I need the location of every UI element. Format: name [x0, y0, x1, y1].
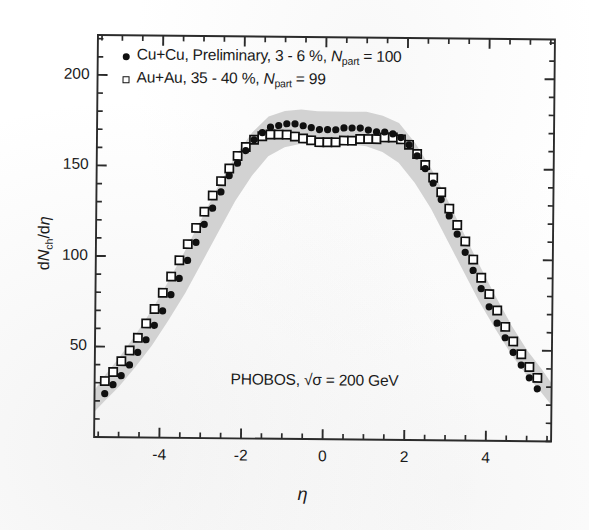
systematic-error-band: [94, 107, 554, 416]
y-axis-label: dNch/dη: [35, 183, 56, 303]
open-square-icon: [114, 76, 136, 83]
y-axis-label-sub: ch: [43, 239, 55, 250]
legend-text-cu-cu-b: = 100: [359, 48, 401, 65]
experiment-annotation: PHOBOS, √σ = 200 GeV: [231, 370, 399, 390]
legend-text-cu-cu-sub: part: [342, 55, 359, 67]
x-tick-label: -2: [221, 446, 261, 464]
x-tick-label: -4: [139, 445, 179, 463]
legend-label-au-au: Au+Au, 35 - 40 %, Npart = 99: [136, 66, 325, 96]
x-tick-label: 2: [384, 448, 424, 466]
legend-text-au-au-a: Au+Au, 35 - 40 %,: [136, 69, 263, 87]
y-axis-label-eta: η: [35, 216, 52, 225]
legend-text-cu-cu-n: N: [331, 48, 342, 65]
series-au-au-points: [101, 129, 544, 390]
y-axis-label-d: d: [35, 261, 52, 270]
legend-text-au-au-sub: part: [274, 77, 291, 89]
x-tick-label: 0: [302, 447, 342, 465]
y-tick-label: 200: [42, 64, 90, 82]
y-axis-label-n: N: [35, 250, 52, 262]
y-tick-label: 50: [39, 336, 87, 354]
x-tick-label: 4: [466, 449, 506, 467]
figure-container: -4-202450100150200 Cu+Cu, Preliminary, 3…: [0, 0, 589, 530]
legend-text-cu-cu-a: Cu+Cu, Preliminary, 3 - 6 %,: [137, 46, 331, 65]
legend-text-au-au-b: = 99: [292, 70, 326, 87]
filled-circle-icon: [115, 53, 137, 60]
y-tick-label: 150: [41, 155, 89, 173]
legend-text-au-au-n: N: [263, 70, 274, 87]
y-axis-label-slash-d: /d: [35, 225, 52, 239]
x-axis-label: η: [297, 484, 307, 505]
legend: Cu+Cu, Preliminary, 3 - 6 %, Npart = 100…: [114, 45, 401, 94]
